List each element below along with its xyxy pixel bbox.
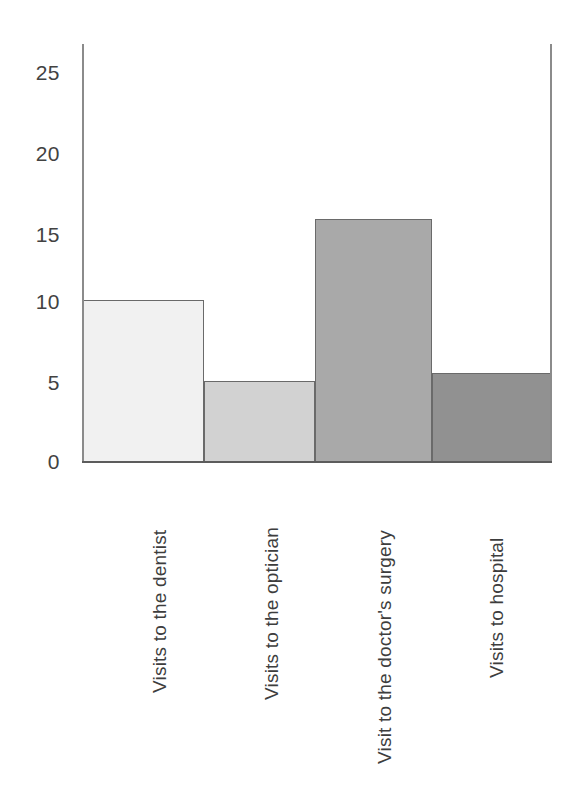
x-tick-label-doctors: Visit to the doctor's surgery (375, 530, 394, 764)
x-tick-label-optician: Visits to the optician (262, 527, 281, 700)
x-tick-label-hospital: Visits to hospital (487, 537, 506, 678)
bar-chart: 25 20 15 10 5 0 Visits to the dentist Vi… (0, 0, 575, 795)
x-axis-category-labels: Visits to the dentist Visits to the opti… (0, 0, 575, 795)
x-tick-label-dentist: Visits to the dentist (150, 530, 169, 693)
